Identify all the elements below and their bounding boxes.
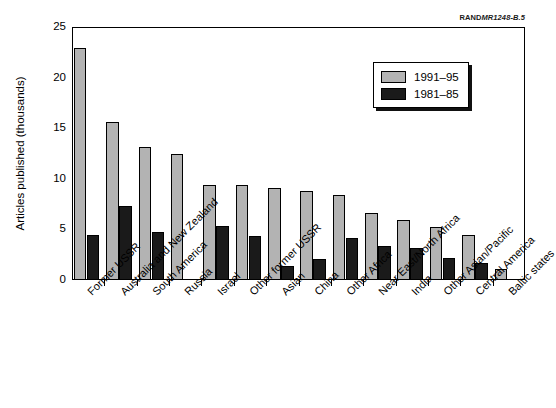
legend-item-earlier[interactable]: 1981–85 [381,85,459,102]
bar-recent[interactable] [74,48,87,280]
bar-recent[interactable] [236,185,249,280]
bar-group [72,27,104,280]
bar-earlier[interactable] [216,226,229,280]
rand-document-id: MR1248-B.5 [481,13,525,22]
bar-group [331,27,363,280]
legend-item-recent[interactable]: 1991–95 [381,68,459,85]
chart-legend: 1991–95 1981–85 [373,62,469,108]
y-tick-label: 0 [38,273,66,285]
bar-earlier[interactable] [249,236,262,280]
y-tick-label: 25 [38,20,66,32]
source-credit: RANDMR1248-B.5 [459,13,525,22]
legend-swatch-icon-recent [381,71,406,83]
bar-earlier[interactable] [346,238,359,281]
y-tick-label: 5 [38,222,66,234]
legend-label-recent: 1991–95 [414,71,459,83]
legend-swatch-icon-earlier [381,88,406,100]
y-tick-label: 20 [38,71,66,83]
rand-logo-text: RAND [459,13,481,22]
y-tick-label: 15 [38,121,66,133]
bar-group [201,27,233,280]
bar-recent[interactable] [333,195,346,280]
legend-label-earlier: 1981–85 [414,88,459,100]
y-tick-label: 10 [38,172,66,184]
bar-earlier[interactable] [87,235,100,280]
y-axis-title: Articles published (thousands) [14,27,30,280]
bar-group [234,27,266,280]
